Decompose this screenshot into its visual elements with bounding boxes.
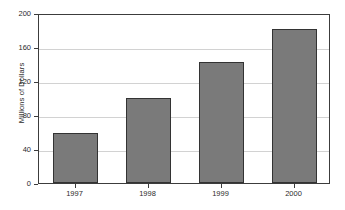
bar-1999 [199,62,244,183]
x-axis-tick [75,184,76,188]
y-axis-title: Millions of Dollars [14,0,28,198]
y-axis-tick-label: 160 [5,44,31,52]
y-axis-tick-label: 0 [5,180,31,188]
x-axis-tick-label-1998: 1998 [126,190,170,198]
x-axis-tick [221,184,222,188]
x-axis-tick-label-2000: 2000 [272,190,316,198]
y-axis-tick-label: 80 [5,112,31,120]
bar-1998 [126,98,171,183]
x-axis-tick [294,184,295,188]
clipped-chart-title [0,0,345,7]
x-axis-tick-label-1997: 1997 [53,190,97,198]
x-axis-tick-label-1999: 1999 [199,190,243,198]
bar-chart-figure: Millions of Dollars 04080120160200 19971… [0,0,345,210]
plot-area [38,14,330,184]
y-axis-tick-label: 200 [5,10,31,18]
x-axis-tick [148,184,149,188]
y-axis-tick-label: 40 [5,146,31,154]
bar-2000 [272,29,317,183]
bar-1997 [53,133,98,183]
y-axis-tick-label: 120 [5,78,31,86]
